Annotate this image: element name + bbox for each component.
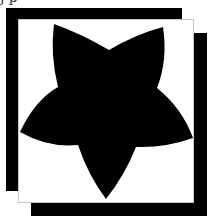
star-icon — [0, 0, 210, 218]
